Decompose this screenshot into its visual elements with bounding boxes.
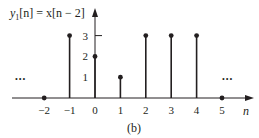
x-tick-label: 0 <box>92 104 98 116</box>
stem <box>169 33 174 98</box>
y-axis-arrow-icon <box>92 8 98 17</box>
stem <box>67 33 72 98</box>
x-axis-label: n <box>243 104 249 118</box>
stem <box>118 75 123 98</box>
y-tick-label: 2 <box>83 50 89 62</box>
stem-marker <box>93 54 98 59</box>
stem <box>93 54 98 98</box>
stem-marker <box>67 33 72 38</box>
x-tick-label: 2 <box>143 104 149 116</box>
chart-title: y1[n] = x[n − 2] <box>9 6 85 22</box>
x-tick-label: 5 <box>219 104 225 116</box>
title-rest: [n] = x[n − 2] <box>19 6 85 20</box>
stem-marker <box>143 33 148 38</box>
stem <box>143 33 148 98</box>
figure-caption: (b) <box>127 121 141 135</box>
continuation-right: ••• <box>222 75 233 84</box>
x-tick-label: 3 <box>168 104 174 116</box>
stem <box>194 33 199 98</box>
x-tick-label: 4 <box>194 104 200 116</box>
stem-marker <box>169 33 174 38</box>
stem <box>42 96 47 101</box>
y-tick-labels: 123 <box>83 30 103 84</box>
y-tick-label: 1 <box>83 71 89 83</box>
stem-marker <box>194 33 199 38</box>
x-tick-labels: −2−1012345 <box>38 104 225 116</box>
stems-group <box>42 33 225 100</box>
stem-plot: −2−1012345 123 y1[n] = x[n − 2] n ••• ••… <box>0 0 259 138</box>
stem <box>220 96 225 101</box>
x-tick-label: −2 <box>38 104 50 116</box>
stem-marker <box>220 96 225 101</box>
stem-marker <box>118 75 123 80</box>
continuation-left: ••• <box>15 75 26 84</box>
x-tick-label: −1 <box>64 104 76 116</box>
x-tick-label: 1 <box>118 104 124 116</box>
y-tick-label: 3 <box>83 30 89 42</box>
x-axis-arrow-icon <box>245 95 254 101</box>
stem-marker <box>42 96 47 101</box>
